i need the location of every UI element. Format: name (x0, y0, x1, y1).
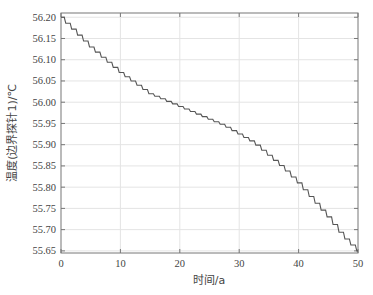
y-tick-label: 55.80 (32, 182, 56, 193)
y-tick-label: 56.10 (32, 54, 56, 65)
y-tick-label: 55.65 (32, 245, 56, 256)
y-axis-label: 温度(边界探针1)/℃ (5, 84, 19, 182)
grid (61, 13, 358, 253)
y-tick-label: 55.75 (32, 203, 56, 214)
y-tick-label: 56.05 (32, 75, 56, 86)
x-ticks: 01020304050 (58, 13, 363, 269)
x-tick-label: 30 (234, 258, 245, 269)
line-chart: 01020304050 55.6555.7055.7555.8055.8555.… (0, 0, 373, 295)
x-tick-label: 10 (115, 258, 126, 269)
y-tick-label: 55.70 (32, 224, 56, 235)
y-tick-label: 55.85 (32, 160, 56, 171)
y-tick-label: 56.15 (32, 33, 56, 44)
temperature-curve (61, 17, 358, 251)
y-tick-label: 56.00 (32, 97, 56, 108)
x-tick-label: 0 (58, 258, 63, 269)
x-tick-label: 20 (175, 258, 186, 269)
y-tick-label: 55.90 (32, 139, 56, 150)
y-tick-label: 55.95 (32, 118, 56, 129)
x-tick-label: 50 (353, 258, 364, 269)
y-tick-label: 56.20 (32, 12, 56, 23)
x-axis-label: 时间/a (193, 274, 225, 287)
plot-frame (61, 13, 358, 253)
x-tick-label: 40 (293, 258, 304, 269)
y-ticks: 55.6555.7055.7555.8055.8555.9055.9556.00… (32, 12, 358, 257)
